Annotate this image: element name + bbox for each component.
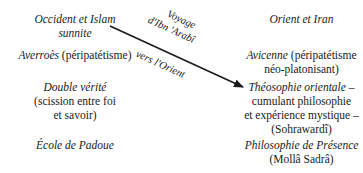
right-item-avicenne: Avicenne (péripatétisme néo-platonisant) <box>240 48 363 76</box>
right-item-philosophie-presence: Philosophie de Présence (Mollâ Sadrâ) <box>240 138 363 166</box>
right-item-theosophie: Théosophie orientale – cumulant philosop… <box>240 80 363 136</box>
right-heading: Orient et Iran <box>240 12 363 26</box>
